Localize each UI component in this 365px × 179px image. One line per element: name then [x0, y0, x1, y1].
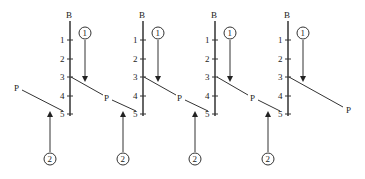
p-ray [144, 77, 176, 95]
axis-top-label: B [284, 10, 290, 20]
p-label: P [14, 83, 19, 93]
axis-top-label: B [139, 10, 145, 20]
p-ray [258, 100, 280, 111]
tick-label: 2 [278, 54, 283, 64]
arrow-2-label: 2 [193, 154, 198, 164]
arrow-2-label: 2 [266, 154, 271, 164]
axis-top-label: B [211, 10, 217, 20]
p-ray [185, 100, 208, 111]
tick-label: 2 [133, 54, 138, 64]
tick-label: 4 [60, 91, 65, 101]
p-label: P [104, 93, 109, 103]
tick-label: 2 [205, 54, 210, 64]
tick-label: 1 [205, 35, 210, 45]
p-ray [217, 77, 248, 95]
tick-label: 1 [133, 35, 138, 45]
tick-label: 3 [278, 72, 283, 82]
axis-top-label: B [66, 10, 72, 20]
arrow-2-label: 2 [121, 154, 126, 164]
p-ray [112, 100, 136, 111]
p-ray [289, 77, 343, 107]
tick-label: 1 [278, 35, 283, 45]
tick-label: 3 [205, 72, 210, 82]
diagram-canvas: B1234512B1234512B1234512B1234512PPPPP [0, 0, 365, 179]
tick-label: 2 [60, 54, 65, 64]
p-label: P [346, 105, 351, 115]
arrow-1-label: 1 [228, 28, 233, 38]
arrow-1-label: 1 [156, 28, 161, 38]
p-ray [71, 77, 103, 95]
tick-label: 3 [133, 72, 138, 82]
arrow-1-label: 1 [83, 28, 88, 38]
p-ray [22, 90, 63, 111]
diagram: B1234512B1234512B1234512B1234512PPPPP [0, 0, 365, 179]
tick-label: 4 [278, 91, 283, 101]
arrow-2-label: 2 [48, 154, 53, 164]
tick-label: 4 [133, 91, 138, 101]
arrow-1-label: 1 [301, 28, 306, 38]
tick-label: 1 [60, 35, 65, 45]
p-label: P [177, 93, 182, 103]
p-label: P [250, 93, 255, 103]
tick-label: 4 [205, 91, 210, 101]
tick-label: 3 [60, 72, 65, 82]
